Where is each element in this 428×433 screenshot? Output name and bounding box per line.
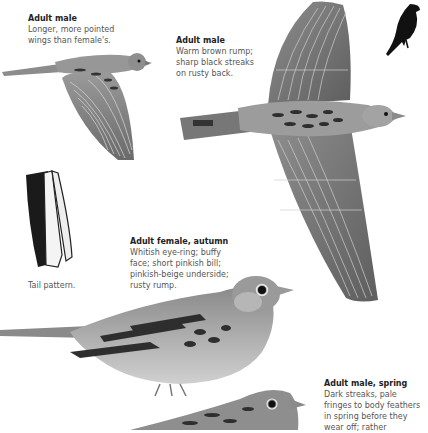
bird-flight-side-illustration xyxy=(0,50,160,160)
caption-title: Adult male, spring xyxy=(324,378,420,389)
bird-flight-top-illustration xyxy=(178,0,410,305)
caption-adult-male-side: Adult male Longer, more pointed wings th… xyxy=(28,13,114,46)
caption-body: Longer, more pointed wings than female's… xyxy=(28,24,114,46)
caption-title: Adult male xyxy=(28,13,114,24)
bird-silhouette-illustration xyxy=(380,2,424,60)
tail-pattern-illustration xyxy=(18,165,78,270)
bird-female-perched-illustration xyxy=(0,272,300,402)
caption-body: Dark streaks, pale fringes to body feath… xyxy=(324,389,420,433)
bird-male-spring-illustration xyxy=(130,385,310,430)
caption-adult-male-spring: Adult male, spring Dark streaks, pale fr… xyxy=(324,378,420,433)
